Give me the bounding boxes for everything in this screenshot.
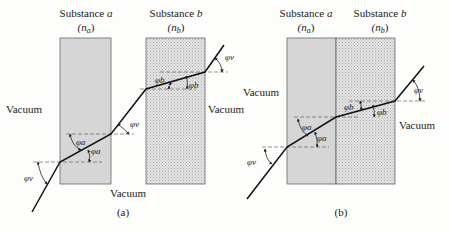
panel-b: Substance a (na) Substance b (nb) Vacuum… <box>243 7 435 219</box>
angle-phi-v-exit-b: φv <box>414 85 423 95</box>
angle-phi-a-out: φa <box>91 146 101 156</box>
angle-phi-b-out-b: φb <box>377 107 387 117</box>
substance-b-title: Substance b <box>150 7 203 19</box>
angle-phi-v-mid: φv <box>130 119 139 129</box>
angle-phi-a-in: φa <box>76 137 86 147</box>
panel-a: Substance a (na) Substance b (nb) Vacuum… <box>6 7 244 219</box>
angle-phi-v-entry: φv <box>24 173 33 183</box>
vacuum-label-right-b: Vacuum <box>399 119 435 131</box>
angle-phi-b-in-b: φb <box>344 102 354 112</box>
vacuum-label-left-b: Vacuum <box>243 86 279 98</box>
angle-phi-a-in-b: φa <box>302 122 312 132</box>
angle-phi-b-out: φb <box>189 80 199 90</box>
substance-b-title-b: Substance b <box>354 7 407 19</box>
angle-phi-a-out-b: φa <box>317 133 327 143</box>
substance-b-index-b: (nb) <box>372 21 389 35</box>
caption-b: (b) <box>335 206 348 219</box>
substance-a-slab <box>60 38 111 184</box>
angle-phi-v-entry-b: φv <box>247 157 256 167</box>
caption-a: (a) <box>117 206 130 219</box>
substance-b-slab <box>146 38 205 184</box>
refraction-diagram: Substance a (na) Substance b (nb) Vacuum… <box>0 0 449 232</box>
vacuum-label-bottom: Vacuum <box>110 187 146 199</box>
vacuum-label-right: Vacuum <box>208 103 244 115</box>
substance-a-slab-b <box>287 38 336 184</box>
angle-phi-b-in: φb <box>155 75 165 85</box>
substance-a-index: (na) <box>78 21 95 35</box>
substance-a-title: Substance a <box>60 7 113 19</box>
substance-b-index: (nb) <box>168 21 185 35</box>
substance-a-title-b: Substance a <box>280 7 333 19</box>
vacuum-label-left: Vacuum <box>6 103 42 115</box>
angle-phi-v-exit: φv <box>225 52 234 62</box>
substance-a-index-b: (na) <box>298 21 315 35</box>
